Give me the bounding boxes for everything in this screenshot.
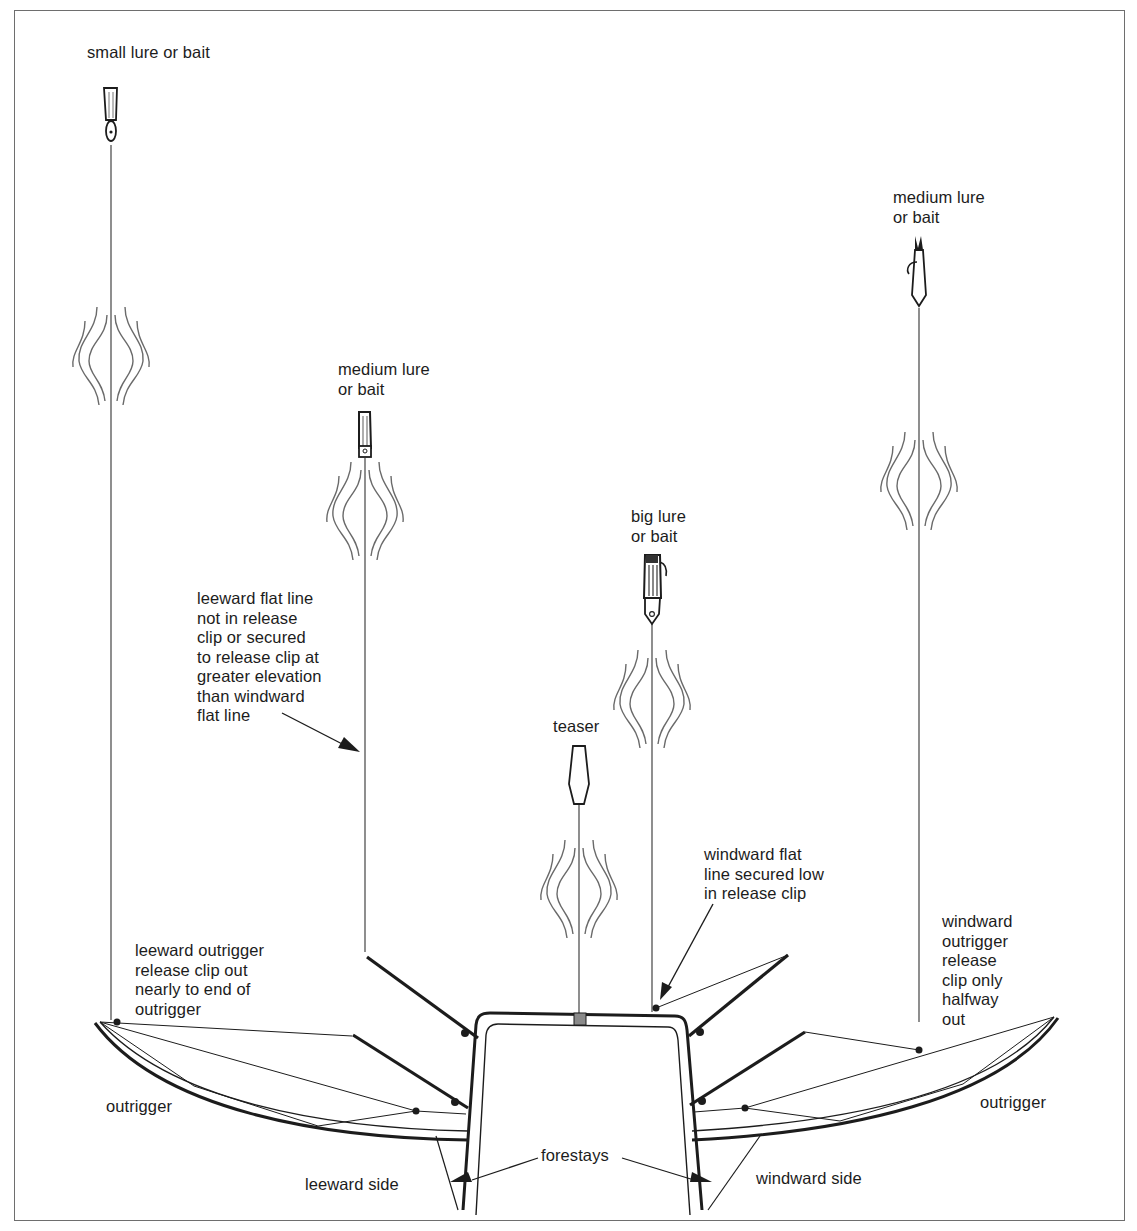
label-teaser: teaser [553,717,599,737]
fishing-spread-illustration [0,0,1137,1231]
label-windward-side: windward side [756,1169,862,1189]
medium-lure-left-line [327,412,403,952]
label-outrigger-left: outrigger [106,1097,172,1117]
label-outrigger-right: outrigger [980,1093,1046,1113]
label-forestays: forestays [541,1146,609,1166]
boat-cockpit [463,1005,702,1216]
label-small-lure: small lure or bait [87,43,210,63]
label-windward-flat-line: windward flat line secured low in releas… [704,845,824,904]
big-lure-line [614,555,690,1012]
medium-lure-right-line [881,236,957,1022]
label-medium-lure-left: medium lure or bait [338,360,430,399]
label-leeward-outrigger-clip: leeward outrigger release clip out nearl… [135,941,264,1019]
small-lure-line [73,88,149,1020]
teaser-line [541,746,617,1018]
windward-flat-line-arrow [660,904,713,1000]
label-leeward-flat-line: leeward flat line not in release clip or… [197,589,322,726]
label-windward-outrigger-clip: windward outrigger release clip only hal… [942,912,1013,1029]
label-medium-lure-right: medium lure or bait [893,188,985,227]
label-leeward-side: leeward side [305,1175,399,1195]
label-big-lure: big lure or bait [631,507,686,546]
